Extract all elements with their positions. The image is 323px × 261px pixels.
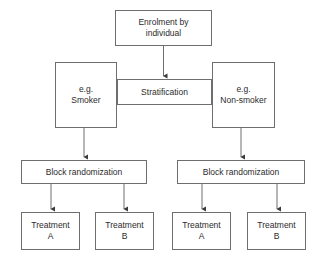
node-block-left-label: Block randomization [44,167,125,178]
node-block-right-label: Block randomization [201,167,282,178]
node-treatment-right-a-line2: A [180,231,222,242]
node-treatment-right-a[interactable]: Treatment A [172,212,231,250]
node-stratification[interactable]: Stratification [117,79,212,105]
node-smoker-line2: Smoker [69,95,102,106]
node-treatment-right-b[interactable]: Treatment B [247,212,306,250]
node-stratification-label: Stratification [139,87,190,98]
node-treatment-left-a[interactable]: Treatment A [21,212,80,250]
node-enrolment-line2: individual [136,28,190,39]
node-treatment-right-a-line1: Treatment [180,220,222,231]
node-treatment-left-b-line1: Treatment [103,220,145,231]
node-nonsmoker-line1: e.g. [218,84,268,95]
node-smoker-line1: e.g. [69,84,102,95]
node-treatment-left-a-line1: Treatment [29,220,71,231]
node-block-randomization-left[interactable]: Block randomization [21,160,147,184]
node-smoker[interactable]: e.g. Smoker [55,62,117,128]
flowchart-canvas: Enrolment by individual e.g. Smoker Stra… [0,0,323,261]
node-nonsmoker[interactable]: e.g. Non-smoker [212,62,275,128]
node-treatment-left-b[interactable]: Treatment B [95,212,154,250]
node-treatment-left-a-line2: A [29,231,71,242]
node-treatment-right-b-line1: Treatment [255,220,297,231]
node-enrolment-line1: Enrolment by [136,17,190,28]
node-nonsmoker-line2: Non-smoker [218,95,268,106]
node-block-randomization-right[interactable]: Block randomization [177,160,305,184]
node-treatment-left-b-line2: B [103,231,145,242]
node-enrolment[interactable]: Enrolment by individual [115,10,212,46]
node-treatment-right-b-line2: B [255,231,297,242]
